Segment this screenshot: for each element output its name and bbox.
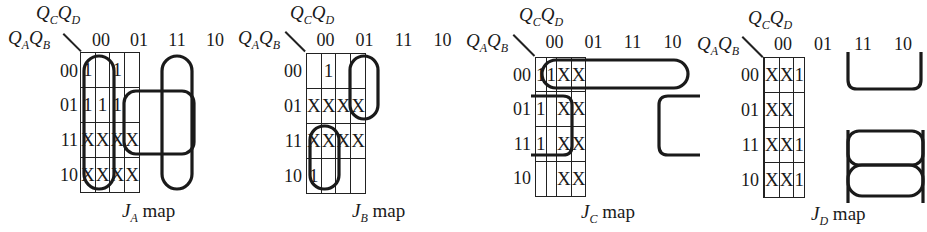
group-loop — [659, 96, 700, 155]
kmap-grid: XX1 XX XX1 XX1 — [763, 57, 805, 198]
row-label: 01 — [733, 100, 759, 121]
cell: X — [351, 89, 366, 124]
cell: X — [765, 93, 780, 128]
col-label: 00 — [306, 30, 345, 51]
col-label: 10 — [423, 30, 462, 51]
cell — [321, 159, 336, 194]
row-variables: QAQB — [238, 27, 280, 53]
cell: X — [571, 162, 586, 197]
map-caption: JB map — [352, 200, 405, 226]
col-label: 00 — [82, 30, 120, 51]
cell: X — [336, 89, 351, 124]
col-label: 00 — [535, 32, 574, 53]
col-label: 00 — [763, 34, 803, 55]
diagonal-divider — [285, 31, 306, 52]
cell: X — [779, 93, 794, 128]
col-label: 11 — [158, 30, 196, 51]
diagonal-divider — [513, 34, 535, 56]
col-label: 01 — [345, 30, 384, 51]
col-label: 10 — [883, 34, 923, 55]
cell: 1 — [321, 54, 336, 89]
cell — [546, 92, 557, 127]
cell: X — [571, 127, 586, 162]
cell: X — [110, 123, 125, 158]
cell: X — [307, 124, 322, 159]
row-label: 11 — [276, 131, 302, 152]
cell: X — [779, 58, 794, 93]
row-variables: QAQB — [8, 27, 50, 53]
col-label: 11 — [843, 34, 883, 55]
cell: X — [125, 123, 140, 158]
col-label: 11 — [384, 30, 423, 51]
col-variables: QCQD — [290, 2, 334, 28]
row-label: 10 — [52, 165, 78, 186]
row-label: 01 — [52, 95, 78, 116]
cell — [536, 162, 547, 197]
cell: 1 — [307, 159, 322, 194]
cell: X — [81, 123, 96, 158]
cell — [794, 93, 805, 128]
group-loop — [848, 52, 921, 89]
cell: 1 — [794, 163, 805, 198]
cell — [307, 54, 322, 89]
cell: X — [351, 124, 366, 159]
cell: X — [307, 89, 322, 124]
row-label: 11 — [733, 135, 759, 156]
cell — [336, 54, 351, 89]
cell: 1 — [95, 88, 110, 123]
cell: X — [779, 128, 794, 163]
group-loop — [848, 165, 923, 196]
cell: X — [571, 58, 586, 92]
cell: X — [95, 158, 110, 193]
col-variables: QCQD — [36, 2, 80, 28]
row-label: 11 — [52, 130, 78, 151]
col-label: 01 — [803, 34, 843, 55]
cell: X — [95, 123, 110, 158]
row-label: 00 — [276, 61, 302, 82]
cell: X — [765, 163, 780, 198]
diagonal-divider — [742, 36, 764, 58]
cell — [351, 54, 366, 89]
kmap-grid: 1 XXXX XXXX 1 — [306, 53, 366, 194]
row-label: 01 — [276, 96, 302, 117]
cell — [351, 159, 366, 194]
col-label: 10 — [652, 32, 693, 53]
kmap-grid: 11XX 1XX 1XX XX — [535, 57, 586, 197]
map-caption: JD map — [811, 203, 866, 229]
cell: 1 — [536, 127, 547, 162]
cell: X — [110, 158, 125, 193]
cell: 1 — [81, 53, 96, 88]
row-variables: QAQB — [697, 33, 739, 59]
group-loop — [848, 131, 923, 165]
cell — [546, 162, 557, 197]
col-label: 01 — [120, 30, 158, 51]
row-label: 00 — [505, 65, 531, 86]
diagonal-divider — [63, 33, 82, 52]
cell: X — [321, 89, 336, 124]
cell: X — [765, 58, 780, 93]
row-label: 00 — [52, 61, 78, 82]
cell: 1 — [546, 58, 557, 92]
row-label: 10 — [276, 166, 302, 187]
kmap-grid: 11 111 XXXX XXXX — [80, 52, 140, 193]
row-label: 00 — [733, 65, 759, 86]
row-label: 11 — [505, 134, 531, 155]
cell: 1 — [110, 53, 125, 88]
row-variables: QAQB — [466, 30, 508, 56]
row-label: 10 — [733, 170, 759, 191]
cell: X — [557, 127, 572, 162]
cell: X — [321, 124, 336, 159]
cell: X — [336, 124, 351, 159]
cell — [546, 127, 557, 162]
cell: X — [557, 58, 572, 92]
cell: X — [571, 92, 586, 127]
cell — [336, 159, 351, 194]
cell: 1 — [536, 58, 547, 92]
map-caption: JC map — [581, 201, 635, 227]
cell: X — [765, 128, 780, 163]
cell: 1 — [794, 58, 805, 93]
map-caption: JA map — [122, 200, 175, 226]
cell — [125, 88, 140, 123]
col-label: 10 — [196, 30, 234, 51]
cell — [95, 53, 110, 88]
